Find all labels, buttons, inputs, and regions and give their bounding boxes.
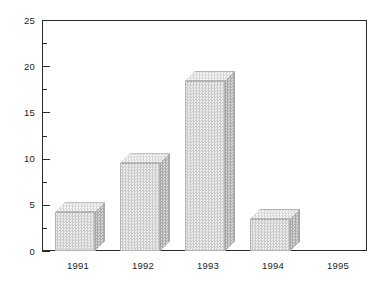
y-axis-label-10: 10: [24, 154, 35, 164]
x-axis-label-1994: 1994: [262, 261, 284, 271]
y-tick-major-15: [42, 112, 50, 113]
bar-1992-side: [160, 153, 170, 251]
y-tick-major-5: [42, 205, 50, 206]
y-tick-major-25: [42, 20, 50, 21]
bar-1994-front: [250, 219, 290, 251]
bar-1991-front: [55, 212, 95, 251]
bar-1993: [185, 71, 235, 251]
bar-1993-front: [185, 81, 225, 251]
y-axis-label-20: 20: [24, 62, 35, 72]
y-tick-major-20: [42, 66, 50, 67]
y-tick-minor-22-5: [42, 43, 47, 44]
y-axis-label-25: 25: [24, 16, 35, 26]
bar-1994: [250, 209, 300, 251]
x-axis-label-1995: 1995: [327, 261, 349, 271]
y-tick-major-10: [42, 159, 50, 160]
y-axis-label-15: 15: [24, 108, 35, 118]
x-axis-label-1993: 1993: [197, 261, 219, 271]
y-tick-minor-2-5: [42, 228, 47, 229]
x-axis-label-1992: 1992: [132, 261, 154, 271]
y-axis-label-0: 0: [30, 247, 35, 257]
bar-1992: [120, 153, 170, 251]
y-tick-minor-17-5: [42, 89, 47, 90]
bar-1991: [55, 163, 105, 251]
x-axis-label-1991: 1991: [67, 261, 89, 271]
bar-1992-front: [120, 163, 160, 251]
y-axis-label-5: 5: [30, 200, 35, 210]
y-tick-minor-12-5: [42, 136, 47, 137]
bar-1993-side: [225, 71, 235, 251]
bar-chart: 25 20 15 10 5 0 1991 1992 1993 1994 1995: [0, 0, 388, 286]
y-tick-major-0: [42, 251, 50, 252]
y-tick-minor-7-5: [42, 182, 47, 183]
